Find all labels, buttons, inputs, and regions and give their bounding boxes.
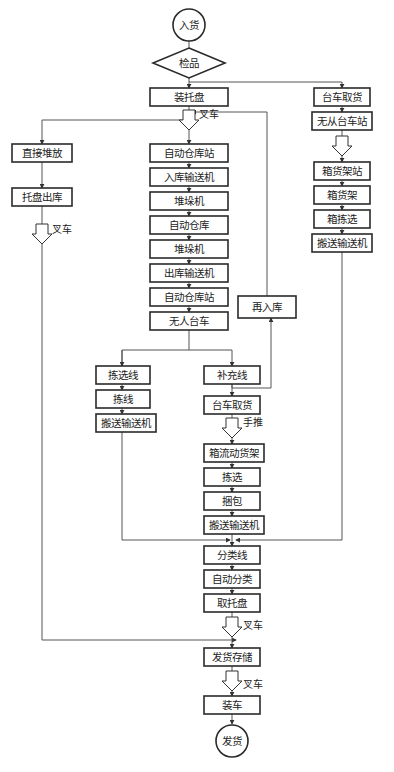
svg-text:手推: 手推 xyxy=(243,416,263,428)
box-packing: 捆包 xyxy=(204,492,260,510)
svg-text:再入库: 再入库 xyxy=(252,301,282,313)
svg-text:分类线: 分类线 xyxy=(217,549,248,561)
svg-text:箱货架: 箱货架 xyxy=(327,189,358,201)
decision-inspection: 检品 xyxy=(153,48,225,78)
box-conveyor-mid: 搬送输送机 xyxy=(204,516,264,534)
box-no-cart-station: 无从台车站 xyxy=(312,112,372,130)
forklift-arrow-1: 叉车 xyxy=(179,108,219,131)
svg-text:箱流动货架: 箱流动货架 xyxy=(209,447,260,459)
box-direct-stack: 直接堆放 xyxy=(12,144,72,162)
svg-text:堆垛机: 堆垛机 xyxy=(174,195,205,207)
svg-text:补充线: 补充线 xyxy=(217,369,248,381)
svg-text:发货: 发货 xyxy=(222,735,242,747)
box-loading: 装车 xyxy=(204,696,260,714)
box-pick: 拣线 xyxy=(96,390,150,408)
svg-text:台车取货: 台车取货 xyxy=(212,399,252,411)
box-agv: 无人台车 xyxy=(150,312,228,330)
box-conveyor-left: 搬送输送机 xyxy=(96,414,156,432)
forklift-arrow-3: 叉车 xyxy=(222,617,263,637)
box-carton-picking: 箱拣选 xyxy=(314,210,370,228)
svg-text:检品: 检品 xyxy=(179,57,199,69)
svg-text:箱货架站: 箱货架站 xyxy=(322,165,363,177)
box-as-station-2: 自动仓库站 xyxy=(150,288,228,306)
box-picking-line: 拣选线 xyxy=(96,366,150,384)
box-outbound-conveyor: 出库输送机 xyxy=(150,264,228,282)
svg-text:装托盘: 装托盘 xyxy=(174,91,205,103)
box-remove-pallet: 取托盘 xyxy=(204,594,260,612)
svg-text:叉车: 叉车 xyxy=(243,619,263,631)
start-node: 入货 xyxy=(173,9,205,41)
svg-text:搬送输送机: 搬送输送机 xyxy=(209,519,260,531)
box-conveyor-right: 搬送输送机 xyxy=(312,234,372,252)
handcart-arrow: 手推 xyxy=(222,416,263,439)
box-as-station-1: 自动仓库站 xyxy=(150,144,228,162)
forklift-arrow-4: 叉车 xyxy=(222,671,263,691)
box-stacker-2: 堆垛机 xyxy=(150,240,228,258)
svg-text:箱拣选: 箱拣选 xyxy=(327,213,358,225)
box-cart-pickup-mid: 台车取货 xyxy=(204,396,260,414)
box-stacker-1: 堆垛机 xyxy=(150,192,228,210)
box-sorting-line: 分类线 xyxy=(204,546,260,564)
svg-text:装车: 装车 xyxy=(222,699,242,711)
svg-text:入库输送机: 入库输送机 xyxy=(164,171,215,183)
svg-text:发货存储: 发货存储 xyxy=(212,651,253,663)
box-cart-pickup-right: 台车取货 xyxy=(314,88,370,106)
forklift-arrow-2: 叉车 xyxy=(32,223,72,245)
box-re-inbound: 再入库 xyxy=(238,296,296,318)
connectors xyxy=(42,38,342,724)
box-palletize: 装托盘 xyxy=(150,88,228,106)
svg-text:捆包: 捆包 xyxy=(222,495,243,507)
box-carton-rack: 箱货架 xyxy=(314,186,370,204)
box-pallet-outbound: 托盘出库 xyxy=(12,188,72,206)
svg-text:自动仓库: 自动仓库 xyxy=(169,219,209,231)
svg-text:台车取货: 台车取货 xyxy=(322,91,362,103)
svg-text:入货: 入货 xyxy=(179,19,199,31)
svg-text:搬送输送机: 搬送输送机 xyxy=(317,237,368,249)
svg-text:取托盘: 取托盘 xyxy=(217,597,248,609)
right-column-arrow xyxy=(332,136,352,156)
svg-text:拣选: 拣选 xyxy=(222,471,243,483)
box-inbound-conveyor: 入库输送机 xyxy=(150,168,228,186)
svg-text:搬送输送机: 搬送输送机 xyxy=(101,417,152,429)
end-node: 发货 xyxy=(216,725,248,757)
box-replenish-line: 补充线 xyxy=(204,366,260,384)
box-carton-flow-rack: 箱流动货架 xyxy=(204,444,264,462)
svg-text:出库输送机: 出库输送机 xyxy=(164,267,215,279)
box-shipping-storage: 发货存储 xyxy=(204,648,260,666)
box-auto-warehouse: 自动仓库 xyxy=(150,216,228,234)
svg-text:无人台车: 无人台车 xyxy=(169,315,209,327)
box-picking: 拣选 xyxy=(204,468,260,486)
svg-text:叉车: 叉车 xyxy=(52,223,72,235)
svg-text:堆垛机: 堆垛机 xyxy=(174,243,205,255)
svg-text:自动仓库站: 自动仓库站 xyxy=(164,291,215,303)
svg-text:直接堆放: 直接堆放 xyxy=(22,147,63,159)
svg-text:自动分类: 自动分类 xyxy=(212,573,253,585)
svg-text:叉车: 叉车 xyxy=(199,108,219,120)
logistics-flowchart: 叉车 叉车 手推 叉车 叉车 入货 检品 装托盘 直接堆放 托盘出库 xyxy=(0,0,394,772)
svg-text:叉车: 叉车 xyxy=(243,678,263,690)
box-carton-rack-station: 箱货架站 xyxy=(314,162,370,180)
box-auto-sort: 自动分类 xyxy=(204,570,260,588)
svg-text:拣线: 拣线 xyxy=(113,393,134,405)
svg-text:拣选线: 拣选线 xyxy=(108,369,139,381)
svg-text:托盘出库: 托盘出库 xyxy=(22,191,62,203)
svg-text:无从台车站: 无从台车站 xyxy=(317,115,368,127)
svg-text:自动仓库站: 自动仓库站 xyxy=(164,147,215,159)
